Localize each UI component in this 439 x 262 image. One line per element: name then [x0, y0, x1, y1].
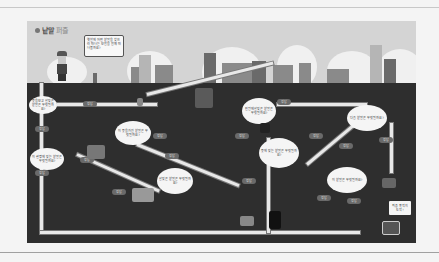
answer-pill[interactable]: 정답 [309, 133, 323, 139]
question-bubble[interactable]: 빈칸에 알맞은 낱말은 무엇일까요? [242, 98, 276, 124]
answer-pill[interactable]: 정답 [153, 133, 167, 139]
answer-pill[interactable]: 정답 [35, 126, 49, 132]
question-bubble[interactable]: 뜻을 보고 알맞은 낱말은 무엇일까요? [29, 96, 57, 114]
coins-sprite [240, 216, 254, 226]
question-bubble[interactable]: 알맞은 낱말은 무엇일까요? [157, 168, 193, 194]
kids-sprite [132, 188, 154, 202]
logo-title: 낱말 [42, 25, 54, 35]
top-divider [0, 7, 439, 8]
answer-pill[interactable]: 정답 [339, 143, 353, 149]
building [384, 59, 396, 83]
villain-sprite [269, 211, 281, 229]
answer-pill[interactable]: 정답 [317, 195, 331, 201]
app-logo: 낱말 퍼즐 [35, 25, 68, 35]
ghost-sprite [137, 98, 143, 106]
monster-sprite [195, 88, 213, 108]
bottom-divider [0, 252, 439, 253]
building [273, 65, 293, 83]
question-bubble[interactable]: 이 뜻을 가진 낱말은 무엇일까요? [115, 121, 151, 145]
goal-sign: 최종 목적지 도착! [389, 201, 411, 215]
answer-pill[interactable]: 정답 [112, 189, 126, 195]
path [390, 123, 393, 173]
group-sprite [87, 145, 105, 159]
tree [93, 73, 97, 83]
building [131, 67, 139, 83]
guide-character [55, 51, 69, 81]
underground-map: 뜻을 보고 알맞은 낱말은 무엇일까요? 이 뜻을 가진 낱말은 무엇일까요? … [27, 83, 416, 243]
question-bubble[interactable]: 다음 낱말은 무엇일까요? [347, 105, 387, 131]
question-bubble[interactable]: 뜻에 맞는 낱말은 무엇일까요? [259, 138, 299, 168]
building [370, 45, 382, 83]
spider-sprite [260, 123, 270, 133]
answer-pill[interactable]: 정답 [35, 170, 49, 176]
answer-pill[interactable]: 정답 [347, 198, 361, 204]
answer-pill[interactable]: 정답 [277, 99, 291, 105]
building [139, 55, 151, 83]
building [299, 63, 311, 83]
logo-subtitle: 퍼즐 [56, 25, 68, 35]
answer-pill[interactable]: 정답 [165, 153, 179, 159]
creature-sprite [382, 178, 396, 188]
path [40, 231, 360, 234]
answer-pill[interactable]: 정답 [235, 133, 249, 139]
answer-pill[interactable]: 정답 [242, 178, 256, 184]
building [155, 65, 173, 83]
answer-pill[interactable]: 정답 [379, 137, 393, 143]
word-puzzle-map: 낱말 퍼즐 옛날에 어떤 낱말을 찾으러 떠나는 모험을 함께 떠나볼까요? 뜻… [27, 21, 416, 243]
logo-icon [35, 28, 40, 33]
answer-pill[interactable]: 정답 [83, 101, 97, 107]
question-bubble[interactable]: 이 설명에 맞는 낱말은 무엇일까요? [30, 148, 64, 170]
question-bubble[interactable]: 이 낱말은 무엇일까요? [327, 167, 367, 193]
treasure-chest[interactable] [382, 221, 400, 235]
intro-speech-bubble: 옛날에 어떤 낱말을 찾으러 떠나는 모험을 함께 떠나볼까요? [84, 35, 124, 57]
building [327, 69, 349, 83]
